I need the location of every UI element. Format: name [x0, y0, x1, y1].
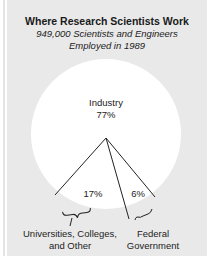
brace-federal-tip-icon [135, 217, 137, 220]
federal-pct: 6% [128, 188, 148, 200]
pie-chart [0, 0, 218, 267]
universities-pct: 17% [78, 188, 108, 200]
universities-label-line-1: Universities, Colleges, [14, 228, 126, 240]
pie-disc [31, 59, 181, 209]
industry-name: Industry [66, 97, 146, 109]
federal-label-line-1: Federal [122, 228, 184, 240]
brace-universities-icon [63, 208, 92, 220]
industry-label: Industry 77% [66, 97, 146, 121]
universities-label: Universities, Colleges, and Other [14, 228, 126, 252]
brace-federal-icon [137, 209, 152, 217]
industry-pct: 77% [66, 109, 146, 121]
federal-label-line-2: Government [122, 240, 184, 252]
federal-label: Federal Government [122, 228, 184, 252]
brace-leader-universities [70, 218, 72, 226]
universities-label-line-2: and Other [14, 240, 126, 252]
